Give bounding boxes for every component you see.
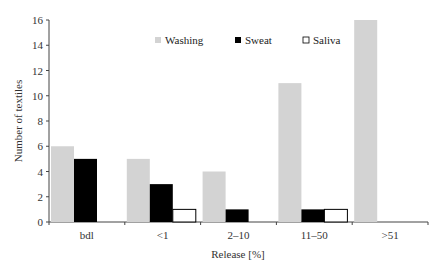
square-outline-icon (303, 37, 309, 43)
y-axis-title: Number of textiles (12, 80, 24, 162)
x-tick-label: 2–10 (228, 229, 251, 241)
x-tick-label: bdl (80, 229, 94, 241)
y-tick-label: 6 (38, 140, 44, 152)
legend-label: Washing (165, 34, 204, 46)
bar-sweat (226, 209, 249, 222)
x-tick-label: 11–50 (301, 229, 329, 241)
x-tick-label: >51 (381, 229, 398, 241)
bar-washing (127, 159, 150, 222)
y-tick-label: 2 (38, 191, 44, 203)
bars (51, 20, 377, 222)
y-tick-label: 8 (38, 115, 44, 127)
y-tick-label: 10 (32, 90, 44, 102)
bar-washing (354, 20, 377, 222)
legend-label: Sweat (245, 34, 272, 46)
y-tick-label: 4 (38, 166, 44, 178)
square-filled-gray-icon (155, 37, 161, 43)
x-tick-label: <1 (157, 229, 169, 241)
bar-sweat (301, 209, 324, 222)
y-tick-label: 12 (32, 65, 43, 77)
bar-chart: 0246810121416 bdl<12–1011–50>51 Number o… (0, 0, 447, 267)
x-axis: bdl<12–1011–50>51 (49, 222, 428, 241)
y-axis: 0246810121416 (32, 14, 49, 228)
y-tick-label: 14 (32, 39, 44, 51)
square-filled-black-icon (235, 37, 241, 43)
bar-sweat (74, 159, 97, 222)
x-axis-title: Release [%] (211, 248, 264, 260)
bar-sweat (150, 184, 173, 222)
legend: WashingSweatSaliva (155, 34, 341, 46)
bar-washing (203, 172, 226, 223)
legend-label: Saliva (313, 34, 341, 46)
bar-saliva (173, 209, 196, 222)
y-tick-label: 0 (38, 216, 44, 228)
bar-washing (278, 83, 301, 222)
y-tick-label: 16 (32, 14, 44, 26)
bar-saliva (324, 209, 347, 222)
bar-washing (51, 146, 74, 222)
